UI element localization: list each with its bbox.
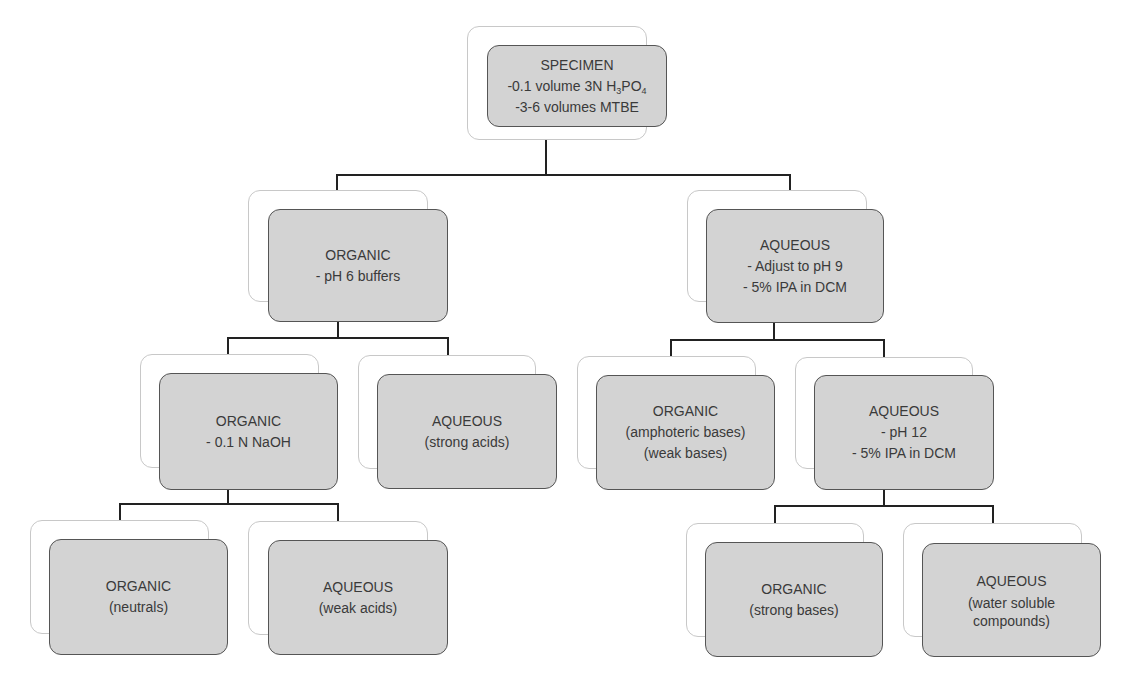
node-title: AQUEOUS [432,411,502,432]
node-title: ORGANIC [216,411,281,432]
organic-box: ORGANIC (strong bases) [705,542,883,657]
aqueous-box: AQUEOUS (strong acids) [377,374,557,489]
node-step: (neutrals) [109,597,168,618]
node-title: AQUEOUS [323,577,393,598]
node-step: (water soluble compounds) [952,594,1072,630]
node-title: ORGANIC [761,579,826,600]
organic-box: ORGANIC (neutrals) [49,539,228,655]
aqueous-box: AQUEOUS - Adjust to pH 9 - 5% IPA in DCM [706,209,884,323]
node-title: AQUEOUS [976,571,1046,592]
node-title: ORGANIC [325,245,390,266]
node-title: ORGANIC [106,576,171,597]
aqueous-box: AQUEOUS (weak acids) [268,540,448,655]
node-step: - pH 6 buffers [316,266,401,287]
node-step: - 5% IPA in DCM [852,443,956,464]
node-title: AQUEOUS [869,401,939,422]
aqueous-box: AQUEOUS - pH 12 - 5% IPA in DCM [814,375,994,490]
node-title: AQUEOUS [760,235,830,256]
node-step: (strong bases) [749,600,838,621]
node-step: -3-6 volumes MTBE [515,97,639,118]
node-step: (strong acids) [425,432,510,453]
node-step: - Adjust to pH 9 [747,256,843,277]
node-step: (weak acids) [319,598,398,619]
node-step: - pH 12 [881,422,927,443]
organic-box: ORGANIC - 0.1 N NaOH [159,373,338,490]
node-title: SPECIMEN [540,55,613,76]
node-step: (weak bases) [644,443,727,464]
node-step: (amphoteric bases) [626,422,746,443]
organic-box: ORGANIC (amphoteric bases) (weak bases) [596,375,775,490]
specimen-box: SPECIMEN -0.1 volume 3N H3PO4 -3-6 volum… [487,45,667,127]
organic-box: ORGANIC - pH 6 buffers [268,209,448,322]
node-step: - 5% IPA in DCM [743,277,847,298]
aqueous-box: AQUEOUS (water soluble compounds) [922,543,1101,657]
node-step: - 0.1 N NaOH [206,432,291,453]
node-title: ORGANIC [653,401,718,422]
node-step: -0.1 volume 3N H3PO4 [507,76,646,97]
extraction-flowchart: SPECIMEN -0.1 volume 3N H3PO4 -3-6 volum… [0,0,1127,685]
